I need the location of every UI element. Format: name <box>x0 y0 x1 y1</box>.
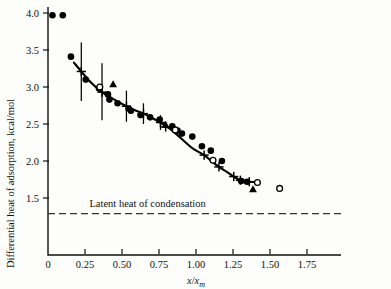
x-tick-label: 0.75 <box>150 259 168 270</box>
data-point-filled-circle <box>179 130 186 137</box>
data-point-filled-circle <box>68 53 75 60</box>
latent-heat-label: Latent heat of condensation <box>89 198 206 209</box>
data-points <box>49 12 282 192</box>
y-axis-title: Differential heat of adsorption, kcal/mo… <box>5 99 16 268</box>
data-point-open-circle <box>277 185 283 191</box>
data-point-filled-circle <box>137 112 144 119</box>
data-point-filled-circle <box>238 178 245 185</box>
data-point-filled-circle <box>106 96 113 103</box>
x-tick-label: 1.00 <box>187 259 205 270</box>
y-tick-label: 4.0 <box>26 8 39 19</box>
y-tick-label: 2.0 <box>26 156 39 167</box>
data-point-filled-circle <box>189 133 196 140</box>
scatter-plot: 1.52.02.53.03.54.000.250.500.751.001.251… <box>0 0 391 289</box>
data-point-filled-circle <box>219 158 226 165</box>
x-tick-label: 0 <box>45 259 50 270</box>
data-point-open-circle <box>255 180 261 186</box>
x-tick-label: 0.50 <box>113 259 131 270</box>
x-tick-label: 0.25 <box>76 259 94 270</box>
figure-canvas: 1.52.02.53.03.54.000.250.500.751.001.251… <box>0 0 391 289</box>
axis-frame <box>48 7 341 255</box>
data-point-filled-triangle <box>109 80 117 87</box>
tick-and-axis-labels: 1.52.02.53.03.54.000.250.500.751.001.251… <box>5 8 316 289</box>
y-tick-label: 3.5 <box>26 45 39 56</box>
y-tick-label: 1.5 <box>26 193 39 204</box>
axes <box>43 7 341 255</box>
x-tick-label: 1.75 <box>298 259 316 270</box>
data-point-filled-circle <box>244 178 251 185</box>
x-tick-label: 1.50 <box>261 259 279 270</box>
data-point-filled-circle <box>49 12 56 19</box>
data-point-open-circle <box>210 157 216 163</box>
data-point-open-circle <box>172 127 178 133</box>
x-tick-label: 1.25 <box>224 259 242 270</box>
data-point-open-circle <box>97 84 103 90</box>
y-tick-label: 2.5 <box>26 119 39 130</box>
data-point-filled-circle <box>199 143 206 150</box>
data-point-filled-circle <box>114 100 121 107</box>
x-axis-title: x/xm <box>186 275 205 289</box>
data-point-filled-triangle <box>249 185 257 192</box>
data-point-filled-circle <box>128 107 135 114</box>
data-point-filled-circle <box>60 12 67 19</box>
data-point-filled-circle <box>156 116 163 123</box>
data-point-filled-circle <box>147 114 154 121</box>
svg-text:x/xm: x/xm <box>186 275 205 289</box>
data-point-filled-circle <box>82 76 89 83</box>
data-point-filled-circle <box>208 147 215 154</box>
y-tick-label: 3.0 <box>26 82 39 93</box>
